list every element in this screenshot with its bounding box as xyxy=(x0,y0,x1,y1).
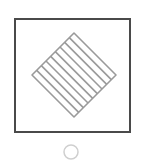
hatch-line xyxy=(69,38,111,80)
hatched-diamond xyxy=(32,33,116,117)
hatch-line xyxy=(46,61,88,103)
hatched-diamond-figure xyxy=(0,0,144,166)
radio-option-circle[interactable] xyxy=(64,145,78,159)
hatch-line xyxy=(55,52,97,94)
hatch-line xyxy=(41,66,83,108)
hatch-line xyxy=(51,56,93,98)
hatch-line xyxy=(65,42,107,84)
hatch-line xyxy=(60,47,102,89)
diamond-outline xyxy=(32,33,116,117)
hatch-line xyxy=(37,70,79,112)
